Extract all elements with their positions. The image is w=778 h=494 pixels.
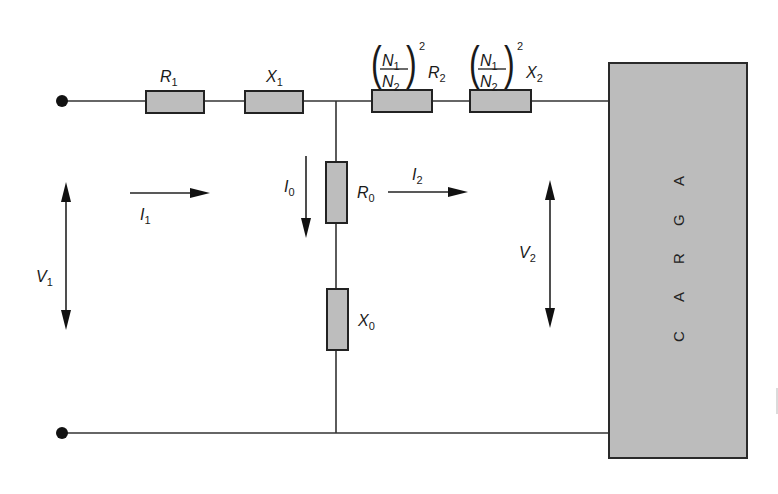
svg-text:(: ( [371, 37, 382, 88]
svg-text:): ) [406, 37, 417, 88]
wires [62, 101, 609, 433]
i0-current-arrow [301, 156, 311, 238]
resistor-r2-referred [372, 90, 432, 112]
label-i2: I2 [412, 166, 423, 186]
svg-text:C: C [670, 331, 687, 342]
svg-text:G: G [670, 214, 687, 226]
label-v1: V1 [36, 268, 53, 288]
svg-text:2: 2 [517, 40, 523, 52]
svg-text:R: R [670, 253, 687, 264]
svg-text:(: ( [469, 37, 480, 88]
label-i1: I1 [140, 206, 151, 226]
reactance-x0 [327, 289, 348, 350]
label-x2-referred: ( N1 N2 ) 2 X2 [469, 37, 543, 93]
resistor-r1 [146, 91, 204, 113]
label-v2: V2 [519, 244, 536, 264]
svg-text:R2: R2 [428, 64, 446, 84]
i1-current-arrow [130, 188, 210, 198]
resistor-r0 [326, 162, 347, 223]
terminal-bottom [56, 427, 68, 439]
v2-voltage-arrow [545, 180, 555, 328]
svg-text:2: 2 [419, 40, 425, 52]
svg-text:A: A [670, 292, 687, 302]
terminal-top [56, 95, 68, 107]
label-r0: R0 [357, 184, 375, 204]
label-i0: I0 [284, 178, 295, 198]
label-r2-referred: ( N1 N2 ) 2 R2 [371, 37, 446, 93]
svg-text:): ) [504, 37, 515, 88]
label-r1: R1 [160, 68, 178, 88]
v1-voltage-arrow [61, 182, 71, 330]
i2-current-arrow [388, 187, 468, 197]
svg-text:A: A [670, 176, 687, 186]
circuit-diagram: R1 X1 ( N1 N2 ) 2 R2 ( N1 N2 ) 2 X2 R0 X… [0, 0, 778, 494]
svg-text:X2: X2 [525, 64, 543, 84]
label-x0: X0 [357, 312, 375, 332]
label-x1: X1 [265, 68, 283, 88]
reactance-x1 [245, 91, 303, 113]
reactance-x2-referred [470, 90, 531, 112]
